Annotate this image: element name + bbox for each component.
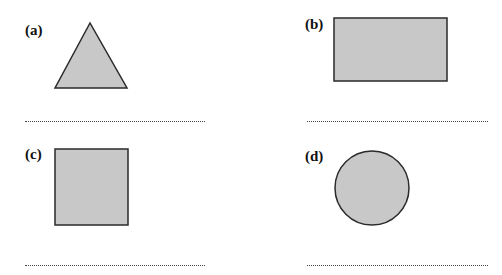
- answer-line-d[interactable]: [307, 265, 488, 266]
- answer-line-c[interactable]: [25, 265, 205, 266]
- rectangle-shape: [334, 18, 447, 81]
- triangle-shape: [55, 23, 127, 88]
- panel-b-label: (b): [305, 16, 323, 33]
- panel-c-label: (c): [25, 146, 42, 163]
- panel-a-label: (a): [25, 22, 43, 39]
- square-shape: [55, 149, 128, 225]
- answer-line-a[interactable]: [25, 121, 205, 122]
- answer-line-b[interactable]: [307, 121, 488, 122]
- shapes-canvas: [0, 0, 502, 275]
- panel-d-label: (d): [305, 148, 323, 165]
- circle-shape: [335, 151, 409, 225]
